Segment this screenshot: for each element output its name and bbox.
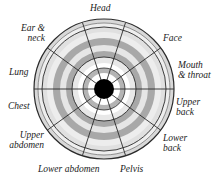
- label-upper-abdomen: Upperabdomen: [8, 130, 44, 150]
- label-face: Face: [163, 33, 182, 43]
- label-pelvis: Pelvis: [120, 164, 143, 174]
- label-lung: Lung: [9, 67, 29, 77]
- label-chest: Chest: [8, 101, 30, 111]
- label-lower-abdomen: Lower abdomen: [38, 164, 100, 174]
- label-upper-back: Upperback: [176, 97, 200, 117]
- label-lower-back: Lowerback: [163, 133, 187, 153]
- label-ear-neck: Ear &neck: [14, 23, 45, 43]
- center-bullseye: [94, 79, 114, 99]
- label-mouth-throat: Mouth& throat: [178, 60, 211, 80]
- label-head: Head: [90, 3, 111, 13]
